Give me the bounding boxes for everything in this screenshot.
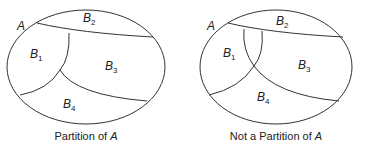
b1-boundary xyxy=(209,31,262,95)
diagram-canvas: A B2 B1 B3 B4 Partition of A A B2 B1 B3 … xyxy=(0,0,367,147)
region-b2-label: B2 xyxy=(276,14,289,30)
partition-figure: A B2 B1 B3 B4 Partition of A xyxy=(7,10,165,142)
b3-boundary xyxy=(60,70,147,101)
set-a-ellipse xyxy=(7,10,165,124)
region-b1-label: B1 xyxy=(30,47,43,63)
region-b3-label: B3 xyxy=(298,58,311,74)
not-partition-caption: Not a Partition of A xyxy=(230,130,322,142)
set-a-label: A xyxy=(16,19,25,33)
partition-caption: Partition of A xyxy=(55,130,118,142)
region-b3-label: B3 xyxy=(105,59,118,75)
b1-boundary xyxy=(20,33,69,95)
set-a-label: A xyxy=(206,19,215,33)
region-b2-label: B2 xyxy=(83,11,96,27)
region-b4-label: B4 xyxy=(257,90,270,106)
not-partition-figure: A B2 B1 B3 B4 Not a Partition of A xyxy=(200,10,352,142)
region-b4-label: B4 xyxy=(63,97,76,113)
region-b1-label: B1 xyxy=(223,46,236,62)
